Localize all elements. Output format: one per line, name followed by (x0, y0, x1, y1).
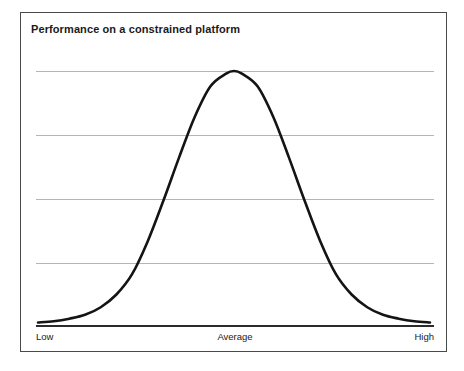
x-axis-baseline (36, 325, 434, 327)
x-axis-label-high: High (414, 331, 434, 342)
plot-area (36, 47, 434, 317)
chart-title: Performance on a constrained platform (31, 23, 240, 35)
x-axis-label-low: Low (36, 331, 53, 342)
bell-curve-line (36, 47, 434, 317)
x-axis-label-average: Average (217, 331, 252, 342)
chart-figure-frame: Performance on a constrained platform Lo… (20, 12, 447, 352)
x-axis-tick-labels: Low Average High (36, 331, 434, 349)
